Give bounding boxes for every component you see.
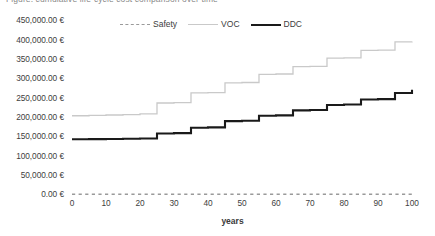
x-axis-title: years <box>0 216 435 226</box>
chart-container: Figure: cumulative life-cycle cost compa… <box>0 0 435 236</box>
plot-area <box>0 0 435 236</box>
x-axis-title-label: years <box>221 216 243 226</box>
